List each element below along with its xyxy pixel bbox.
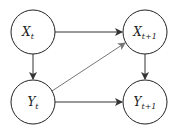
edge-yt-xt1 xyxy=(52,43,125,91)
node-xt1-sub: t+1 xyxy=(142,32,157,41)
node-xt: Xt xyxy=(11,10,55,54)
node-yt: Yt xyxy=(11,80,55,124)
node-xt1: Xt+1 xyxy=(123,10,167,54)
node-yt1: Yt+1 xyxy=(123,80,167,124)
node-xt-base: X xyxy=(21,25,31,39)
dbn-diagram: Xt Xt+1 Yt Yt+1 xyxy=(0,0,180,129)
node-xt1-base: X xyxy=(132,25,142,39)
node-yt1-sub: t+1 xyxy=(141,102,156,111)
